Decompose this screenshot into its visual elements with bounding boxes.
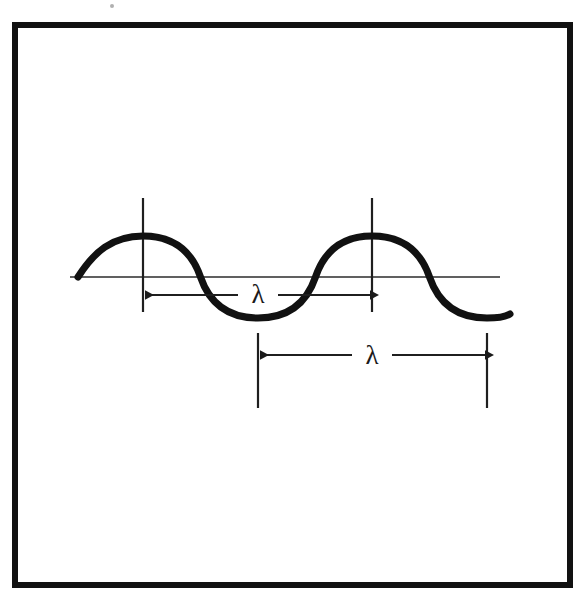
scan-artifact-speck bbox=[110, 4, 114, 8]
lambda-label-upper: λ bbox=[251, 281, 264, 308]
wave-diagram-figure: λ λ bbox=[0, 0, 584, 609]
figure-border bbox=[12, 22, 573, 588]
lambda-label-lower: λ bbox=[365, 342, 378, 369]
